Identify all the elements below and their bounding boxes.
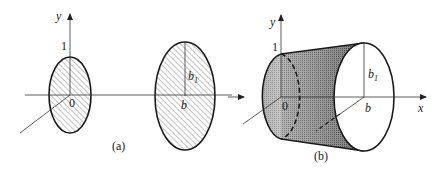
panel-a: y 1 0 b1 b (a): [20, 9, 232, 153]
origin-label-a: 0: [69, 96, 75, 110]
y-axis-label-a: y: [55, 9, 62, 23]
caption-a: (a): [112, 139, 125, 153]
tick-one-b: 1: [272, 40, 278, 54]
origin-label-b: 0: [282, 99, 288, 113]
y-axis-label-b: y: [269, 15, 276, 29]
panel-b: y 1 0 b1 b x (b): [228, 15, 426, 163]
tick-one-a: 1: [61, 39, 67, 53]
figure: y 1 0 b1 b (a) y 1 0: [0, 0, 444, 173]
caption-b: (b): [314, 149, 328, 163]
b-label-b: b: [365, 101, 371, 115]
x-axis-label-b: x: [417, 101, 424, 115]
left-end-front: [262, 54, 281, 139]
b-label-a: b: [181, 98, 187, 112]
